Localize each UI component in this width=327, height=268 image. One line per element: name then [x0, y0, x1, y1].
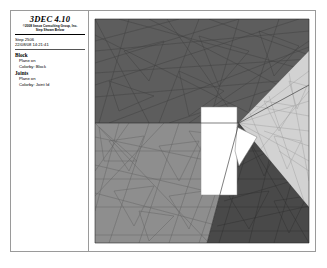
legend-panel: 3DEC 4.10 ©2008 Itasca Consulting Group,…	[11, 11, 89, 251]
legend-divider-top	[15, 34, 85, 35]
legend-timestamp: 22/08/08 14:21:41	[14, 42, 86, 47]
legend-divider-middle	[15, 49, 85, 50]
model-viewport[interactable]	[89, 11, 315, 251]
legend-subtitle-step-shown: Step Shown Below	[14, 28, 86, 32]
legend-title: 3DEC 4.10	[14, 14, 86, 24]
legend-group-joints-item-colorby: Colorby: Joint Id	[14, 82, 86, 87]
model-graphics[interactable]	[89, 11, 315, 251]
plot-window: 3DEC 4.10 ©2008 Itasca Consulting Group,…	[10, 10, 316, 252]
legend-group-block-item-colorby: Colorby: Block	[14, 64, 86, 69]
